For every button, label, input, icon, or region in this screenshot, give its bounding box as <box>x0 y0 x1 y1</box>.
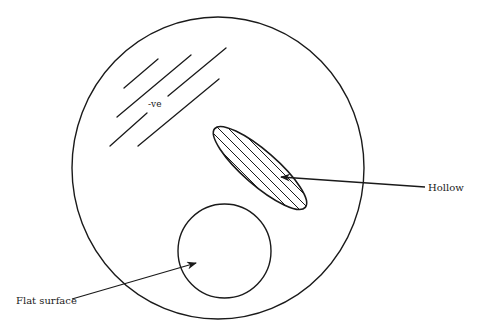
negative-label: -ve <box>148 99 161 109</box>
flat-surface-label: Flat surface <box>16 295 77 306</box>
outer-circle <box>72 17 364 319</box>
negative-line <box>110 113 147 146</box>
flat-surface-arrow <box>72 263 196 299</box>
flat-surface-circle <box>178 204 271 298</box>
negative-line <box>168 48 226 96</box>
hollow-label: Hollow <box>428 182 464 193</box>
negative-line <box>124 59 158 88</box>
negative-lines <box>110 48 226 146</box>
diagram-canvas: -ve Hollow Flat surface <box>0 0 477 333</box>
hollow-arrow <box>281 177 425 187</box>
hollow-region <box>120 100 390 240</box>
